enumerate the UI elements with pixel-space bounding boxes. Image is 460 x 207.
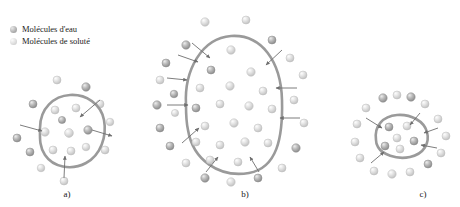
panel-a [13,76,114,185]
solute-molecule-outside [156,76,164,84]
water-molecule-inside [385,123,393,131]
water-molecule-outside [424,160,432,168]
water-molecule-outside [82,83,90,91]
solute-molecule-outside [182,159,190,167]
water-molecule-sphere-icon [10,26,17,33]
arrow-inward-upper-right [80,100,100,117]
legend-item-water: Molécules d'eau [10,24,210,35]
solute-molecule-outside [290,96,298,104]
water-molecule-outside [156,124,164,132]
solute-molecule-outside [300,119,308,127]
solute-molecule-inside [192,138,200,146]
water-molecule-inside [207,66,215,74]
arrow-inward-bottom [64,156,65,178]
solute-molecule-inside [396,145,404,153]
solute-molecule-outside [388,170,396,178]
water-molecule-inside [84,126,92,134]
water-molecule-outside [407,93,415,101]
solute-molecule-outside [353,120,361,128]
solute-molecule-inside [41,128,49,136]
arrow-inward-bottom-right [250,157,259,172]
solute-molecule-outside [370,167,378,175]
solute-molecule-outside [351,138,359,146]
solute-molecule-inside [403,122,411,130]
water-molecule-inside [381,142,389,150]
water-molecule-outside [29,100,37,108]
solute-molecule-outside [286,54,294,62]
water-molecule-outside [153,101,161,109]
water-molecule-outside [162,59,170,67]
osmosis-figure: Molécules d'eau Molécules de soluté [0,0,460,207]
water-molecule-outside [170,90,178,98]
solute-molecule-inside [216,141,224,149]
solute-molecule-inside [247,68,255,76]
solute-molecule-outside [242,16,250,24]
water-molecule-outside [292,144,300,152]
cell-membrane-outline [186,36,282,174]
solute-molecule-inside [254,124,262,132]
solute-molecule-inside [201,122,209,130]
arrow-inward-upper-left [178,55,198,62]
solute-molecule-inside [393,134,401,142]
solute-molecule-outside [101,146,109,154]
water-molecule-inside [58,116,65,123]
solute-molecule-inside [268,105,276,113]
solute-molecule-sphere-icon [10,38,17,45]
solute-molecule-outside [421,100,429,108]
solute-molecule-inside [49,146,57,154]
solute-molecule-inside [216,100,224,108]
panel-label-b: b) [230,189,260,199]
water-molecule-outside [379,94,387,102]
solute-molecule-outside [434,115,442,123]
solute-molecule-inside [259,87,267,95]
solute-molecule-outside [442,132,450,140]
legend-label-water: Molécules d'eau [22,24,77,35]
water-molecule-inside [410,137,418,145]
water-molecule-outside [268,36,276,44]
solute-molecule-inside [82,143,90,151]
solute-molecule-inside [51,106,59,114]
solute-molecule-inside [196,84,204,92]
solute-molecule-inside [245,102,253,110]
solute-molecule-inside [227,46,235,54]
panel-label-a: a) [52,189,82,199]
solute-molecule-outside [356,154,364,162]
solute-molecule-outside [278,164,286,172]
solute-molecule-inside [241,138,249,146]
water-molecule-outside [254,174,262,182]
solute-molecule-outside [60,177,68,185]
solute-molecule-inside [226,82,234,90]
solute-molecule-outside [406,168,414,176]
water-molecule-outside [26,148,34,156]
panel-label-c: c) [408,189,438,199]
water-molecule-outside [13,134,21,142]
solute-molecule-inside [234,158,242,166]
solute-molecule-outside [171,109,178,116]
panel-c [351,91,450,178]
solute-molecule-inside [72,104,80,112]
arrow-outward-right [92,130,112,136]
solute-molecule-outside [37,164,45,172]
solute-molecule-inside [264,139,272,147]
solute-molecule-outside [53,76,61,84]
arrow-inward-bottom-left [371,152,384,163]
solute-molecule-outside [227,178,235,186]
water-molecule-inside [192,104,200,112]
legend-label-solute: Molécules de soluté [22,36,90,47]
solute-molecule-outside [362,104,370,112]
legend-item-solute: Molécules de soluté [10,36,210,47]
solute-molecule-outside [393,91,401,99]
solute-molecule-outside [437,149,445,157]
solute-molecule-inside [65,129,74,138]
solute-molecule-outside [106,118,114,126]
arrow-inward-left-upper [167,78,187,80]
water-molecule-outside [201,174,209,182]
solute-molecule-inside [230,119,238,127]
legend: Molécules d'eau Molécules de soluté [10,24,210,48]
solute-molecule-outside [299,71,307,79]
solute-molecule-inside [67,147,75,155]
water-molecule-outside [166,142,174,150]
